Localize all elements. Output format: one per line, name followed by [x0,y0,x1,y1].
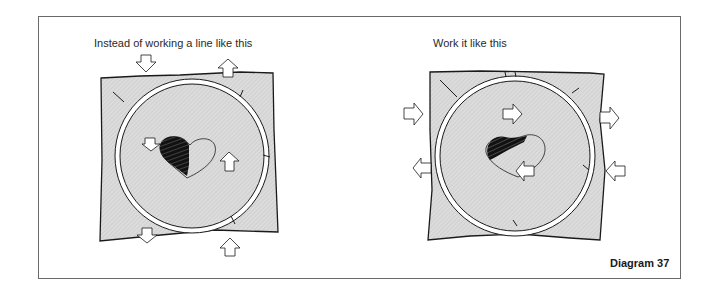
left-panel [100,55,278,256]
right-panel [404,71,625,240]
diagram-illustration [0,0,715,294]
hoop-inner [440,81,590,231]
hoop-inner [120,84,264,228]
